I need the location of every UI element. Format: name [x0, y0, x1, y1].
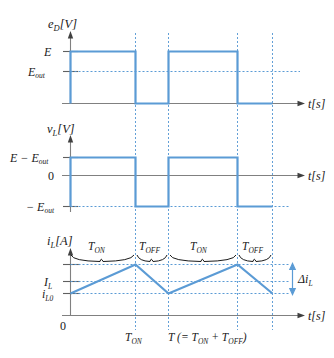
y-axis-arrow — [68, 248, 73, 256]
chart-inductor-current: TON TOFF TON TOFF ΔiL iL[A] IL iL0 0 — [42, 234, 326, 346]
waveform-vL — [71, 158, 273, 207]
chart-inductor-voltage: vL[V] E − Eout 0 − Eout t[s] — [9, 122, 326, 215]
ripple-arrow-head-up — [290, 264, 295, 270]
brace-label-toff-2: TOFF — [242, 240, 263, 255]
chart3-xlabel: t[s] — [308, 309, 326, 323]
x-axis-arrow — [298, 101, 306, 106]
waveform-eD — [71, 52, 273, 104]
y-axis-arrow — [68, 31, 73, 39]
chart2-ylabel: vL[V] — [47, 122, 75, 138]
timing-braces — [71, 255, 271, 262]
x-axis-arrow — [298, 173, 306, 178]
chart3-origin-label: 0 — [60, 319, 66, 333]
chart1-xlabel: t[s] — [308, 97, 326, 111]
ripple-arrow-head-down — [290, 289, 295, 295]
chart2-ytick-zero: 0 — [48, 169, 54, 183]
ripple-arrow — [290, 264, 295, 295]
chart3-xtick-period: T (= TON + TOFF) — [168, 331, 247, 346]
chart1-ylabel: eD[V] — [48, 17, 77, 33]
chart2-xlabel: t[s] — [308, 169, 326, 183]
brace-toff-1 — [137, 255, 167, 262]
brace-ton-1 — [71, 255, 134, 262]
x-axis-arrow — [298, 313, 306, 318]
ripple-label: ΔiL — [297, 272, 313, 288]
brace-ton-2 — [170, 255, 236, 262]
chart3-xtick-ton: TON — [125, 331, 143, 346]
chart3-ylabel: iL[A] — [47, 234, 73, 250]
waveform-iL — [71, 265, 273, 294]
vertical-gridlines — [136, 33, 273, 330]
y-axis-arrow — [68, 135, 73, 143]
brace-toff-2 — [239, 255, 271, 262]
chart1-ytick-E: E — [43, 45, 52, 59]
chart2-ytick-negEout: − Eout — [26, 200, 55, 216]
chart2-ytick-EminusEout: E − Eout — [9, 151, 49, 167]
brace-label-ton-2: TON — [190, 240, 208, 255]
brace-label-toff-1: TOFF — [139, 240, 160, 255]
chart-diode-voltage: eD[V] E Eout t[s] — [27, 17, 326, 111]
brace-label-ton-1: TON — [88, 240, 106, 255]
chart1-ytick-Eout: Eout — [27, 65, 46, 81]
waveform-figure: eD[V] E Eout t[s] vL[V] E − Eout 0 − Eou… — [0, 0, 334, 358]
